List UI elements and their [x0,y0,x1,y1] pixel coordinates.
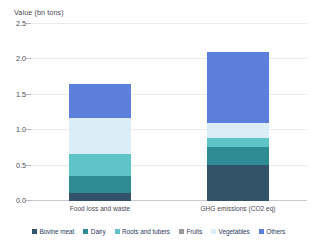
legend-swatch-icon [211,229,216,234]
legend-swatch-icon [259,229,264,234]
bar-segment[interactable] [207,165,269,201]
y-axis-tick-label: 2.5 [16,19,26,28]
legend-item-label: Others [266,228,285,235]
bar-segment[interactable] [207,147,269,165]
y-axis-tick-mark [26,23,31,24]
y-axis-tick-mark [26,165,31,166]
legend-item-label: Roots and tubers [122,228,170,235]
legend-item[interactable]: Bovine meat [32,228,74,235]
bar-2[interactable]: GHG emissions (CO2 eq) [207,52,269,201]
y-axis-tick-label: 0.5 [16,160,26,169]
bar-segment[interactable] [69,118,131,154]
y-axis-title: Value (bn tons) [14,8,64,17]
x-axis-category-label: Food loss and waste [70,205,130,212]
y-axis-tick-mark [26,129,31,130]
bar-1[interactable]: Food loss and waste [69,84,131,201]
chart-legend: Bovine meatDairyRoots and tubersFruitsVe… [0,228,317,235]
y-axis-tick-label: 1.5 [16,89,26,98]
bar-segment[interactable] [207,52,269,123]
legend-item-label: Vegetables [219,228,250,235]
plot-area: 0.00.51.01.52.02.5Food loss and wasteGHG… [31,24,307,201]
y-axis-tick-mark [26,200,31,201]
legend-swatch-icon [32,229,37,234]
y-axis-tick-label: 0.0 [16,196,26,205]
bar-segment[interactable] [69,154,131,177]
bar-segment[interactable] [207,123,269,138]
y-axis-tick-mark [26,94,31,95]
legend-item[interactable]: Others [259,228,285,235]
y-axis-tick-label: 2.0 [16,54,26,63]
legend-item-label: Fruits [186,228,202,235]
bar-segment[interactable] [69,193,131,201]
gridline: 2.5 [31,23,307,24]
bar-segment[interactable] [69,84,131,117]
legend-swatch-icon [83,229,88,234]
legend-item[interactable]: Dairy [83,228,105,235]
y-axis-tick-label: 1.0 [16,125,26,134]
x-axis-category-label: GHG emissions (CO2 eq) [200,205,275,212]
legend-swatch-icon [115,229,120,234]
stacked-bar-chart: Value (bn tons) 0.00.51.01.52.02.5Food l… [0,0,317,250]
legend-item[interactable]: Fruits [179,228,202,235]
legend-item[interactable]: Vegetables [211,228,250,235]
legend-item-label: Dairy [91,228,106,235]
bar-segment[interactable] [207,138,269,146]
legend-item[interactable]: Roots and tubers [115,228,170,235]
y-axis-tick-mark [26,58,31,59]
bar-segment[interactable] [69,176,131,192]
legend-item-label: Bovine meat [39,228,74,235]
legend-swatch-icon [179,229,184,234]
